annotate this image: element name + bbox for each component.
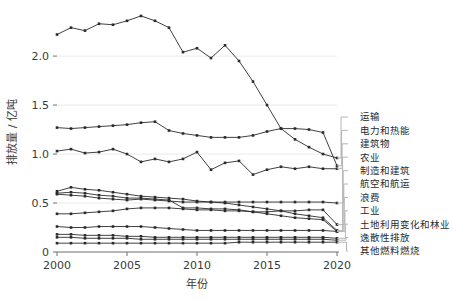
series-marker [224,238,227,241]
legend-label-10[interactable]: 其他燃料燃烧 [360,245,420,256]
legend-label-3[interactable]: 农业 [360,152,380,163]
series-marker [140,242,143,245]
legend-label-9[interactable]: 逸散性排放 [360,232,410,243]
series-marker [182,242,185,245]
series-marker [252,80,255,83]
legend-label-8[interactable]: 土地利用变化和林业 [360,219,450,230]
series-marker [70,191,73,194]
series-marker [252,241,255,244]
emissions-line-chart: 2000200520102015202000.51.01.52.0 运输电力和热… [0,0,453,302]
x-axis-title: 年份 [186,277,208,291]
series-marker [126,237,129,240]
series-marker [322,229,325,232]
series-marker [154,238,157,241]
series-marker [168,200,171,203]
series-6 [56,207,339,226]
series-marker [322,167,325,170]
series-marker [224,242,227,245]
series-marker [266,208,269,211]
series-7 [56,225,339,233]
series-marker [84,29,87,32]
series-marker [280,238,283,241]
series-marker [224,44,227,47]
series-marker [140,15,143,18]
series-marker [84,126,87,129]
series-marker [154,199,157,202]
series-marker [308,217,311,220]
series-marker [224,162,227,165]
series-marker [196,238,199,241]
y-tick-label-0: 0 [42,246,49,259]
series-marker [196,151,199,154]
series-marker [322,241,325,244]
series-marker [98,225,101,228]
series-marker [308,209,311,212]
series-marker [56,213,59,216]
series-marker [238,160,241,163]
series-marker [238,229,241,232]
series-marker [280,210,283,213]
series-marker [266,168,269,171]
series-marker [154,226,157,229]
series-marker [266,104,269,107]
series-marker [196,209,199,212]
series-marker [196,229,199,232]
series-marker [322,153,325,156]
series-marker [280,229,283,232]
series-marker [294,229,297,232]
series-marker [294,213,297,216]
legend-labels: 运输电力和热能建筑物农业制造和建筑航空和航运浪费工业土地利用变化和林业逸散性排放… [360,111,450,256]
series-marker [308,229,311,232]
series-marker [112,242,115,245]
series-marker [154,242,157,245]
series-marker [294,127,297,130]
series-marker [168,129,171,132]
legend-label-4[interactable]: 制造和建筑 [360,165,410,176]
series-marker [280,165,283,168]
series-marker [252,173,255,176]
series-marker [126,199,129,202]
series-marker [112,198,115,201]
series-marker [196,47,199,50]
series-marker [182,208,185,211]
series-marker [112,23,115,26]
series-marker [308,238,311,241]
series-marker [70,127,73,130]
series-marker [196,242,199,245]
series-marker [182,201,185,204]
series-marker [322,131,325,134]
series-marker [182,238,185,241]
series-marker [252,134,255,137]
series-marker [112,195,115,198]
series-marker [126,20,129,23]
legend-label-5[interactable]: 航空和航运 [360,178,410,189]
series-marker [112,148,115,151]
series-marker [210,209,213,212]
series-marker [126,153,129,156]
series-marker [210,57,213,60]
x-tick-label-2: 2010 [183,259,211,272]
series-marker [56,150,59,153]
series-marker [98,151,101,154]
series-marker [210,136,213,139]
legend-label-6[interactable]: 浪费 [360,192,380,203]
series-marker [140,225,143,228]
series-marker [140,235,143,238]
legend-label-0[interactable]: 运输 [360,111,380,122]
series-marker [98,234,101,237]
series-marker [84,195,87,198]
series-marker [196,201,199,204]
series-marker [140,161,143,164]
series-marker [84,226,87,229]
legend-label-2[interactable]: 建筑物 [360,138,390,149]
series-marker [280,201,283,204]
series-marker [308,146,311,149]
series-marker [154,158,157,161]
series-marker [98,189,101,192]
series-marker [98,22,101,25]
series-marker [70,233,73,236]
legend-label-1[interactable]: 电力和热能 [360,125,410,136]
series-marker [84,234,87,237]
legend-label-7[interactable]: 工业 [360,205,380,216]
series-marker [252,206,255,209]
